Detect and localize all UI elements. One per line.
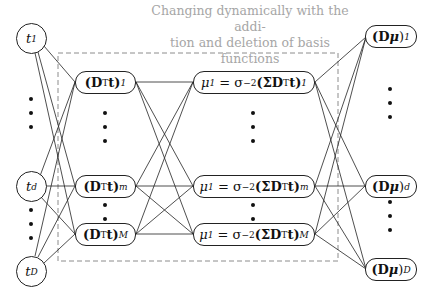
node-text: t) xyxy=(107,179,119,194)
node-text: μ xyxy=(200,179,208,194)
node-text: (D xyxy=(83,179,100,194)
input-node-td: td xyxy=(16,171,47,202)
node-subscript: 1 xyxy=(31,34,37,44)
posterior-mean-node-1: μ1 = σ−2(ΣDTt)1 xyxy=(193,71,315,94)
node-text: t) xyxy=(287,227,299,242)
node-text: μ xyxy=(201,75,209,90)
node-text: (D xyxy=(371,262,388,277)
node-text: μ xyxy=(389,262,399,277)
ellipsis-vertical xyxy=(250,106,256,148)
output-node-1: (Dμ)1 xyxy=(365,25,417,48)
node-text: t) xyxy=(108,75,120,90)
node-text: t) xyxy=(288,179,300,194)
node-superscript: −2 xyxy=(241,230,254,240)
node-text: μ xyxy=(390,179,400,194)
node-text: μ xyxy=(199,227,207,242)
input-node-t1: t1 xyxy=(16,23,47,54)
node-superscript: −2 xyxy=(242,182,255,192)
node-text: (D xyxy=(85,75,102,90)
projection-node-M: (DTt)M xyxy=(75,223,136,246)
node-text: t) xyxy=(289,75,301,90)
ellipsis-vertical xyxy=(387,195,393,237)
node-subscript: M xyxy=(119,230,128,240)
node-superscript: −2 xyxy=(243,78,256,88)
node-subscript: 1 xyxy=(120,78,126,88)
node-text: = σ xyxy=(214,179,242,194)
input-node-tD: tD xyxy=(16,256,47,287)
node-subscript: D xyxy=(31,267,38,277)
node-text: = σ xyxy=(213,227,241,242)
dynamic-region-caption: Changing dynamically with the addi- tion… xyxy=(150,3,350,67)
output-node-D: (Dμ)D xyxy=(365,258,417,281)
node-subscript: m xyxy=(300,182,309,192)
ellipsis-vertical xyxy=(28,92,34,134)
ellipsis-vertical xyxy=(387,82,393,124)
posterior-mean-node-M: μ1 = σ−2(ΣDTt)M xyxy=(193,223,315,246)
node-text: (ΣD xyxy=(255,179,282,194)
node-text: (ΣD xyxy=(255,227,282,242)
posterior-mean-node-m: μ1 = σ−2(ΣDTt)m xyxy=(193,175,315,198)
node-text: t) xyxy=(107,227,119,242)
caption-line-1: Changing dynamically with the addi- xyxy=(150,3,350,35)
node-subscript: d xyxy=(31,182,37,192)
node-text: = σ xyxy=(215,75,243,90)
node-subscript: 1 xyxy=(301,78,307,88)
node-subscript: M xyxy=(300,230,309,240)
node-text: (D xyxy=(372,179,389,194)
ellipsis-vertical xyxy=(102,106,108,148)
node-text: μ xyxy=(390,29,400,44)
node-subscript: 1 xyxy=(404,32,410,42)
node-subscript: m xyxy=(119,182,128,192)
node-text: (ΣD xyxy=(256,75,283,90)
node-text: (D xyxy=(372,29,389,44)
projection-node-1: (DTt)1 xyxy=(75,71,136,94)
node-subscript: d xyxy=(404,182,410,192)
node-subscript: D xyxy=(403,265,410,275)
node-text: (D xyxy=(83,227,100,242)
ellipsis-vertical xyxy=(28,203,34,245)
caption-line-2: tion and deletion of basis functions xyxy=(150,35,350,67)
projection-node-m: (DTt)m xyxy=(75,175,136,198)
